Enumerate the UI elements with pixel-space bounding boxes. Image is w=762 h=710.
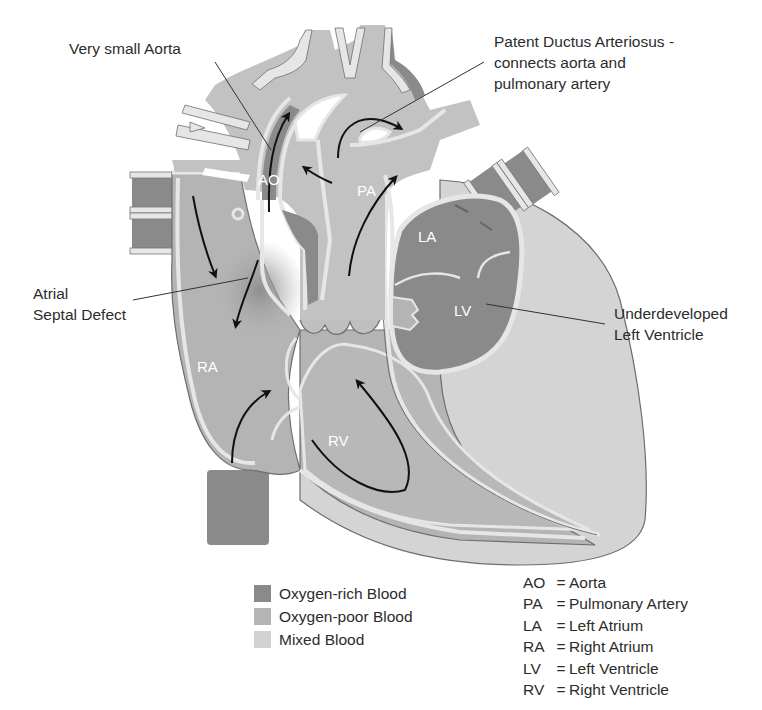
callout-text-line2: Septal Defect: [33, 304, 126, 325]
callout-text-line3: pulmonary artery: [494, 73, 674, 94]
abbr-row-pa: PA = Pulmonary Artery: [523, 594, 688, 616]
abbreviation-key: AO = Aorta PA = Pulmonary Artery LA = Le…: [523, 572, 688, 701]
label-lv: LV: [454, 302, 471, 319]
legend: Oxygen-rich Blood Oxygen-poor Blood Mixe…: [254, 582, 413, 651]
swatch-oxygen-rich-icon: [254, 585, 271, 602]
label-ao: AO: [258, 171, 280, 188]
callout-atrial-septal-defect: Atrial Septal Defect: [33, 283, 126, 325]
abbr-equals: =: [553, 595, 569, 613]
abbr-meaning: Left Atrium: [569, 617, 643, 635]
abbr-row-lv: LV = Left Ventricle: [523, 658, 688, 680]
abbr-row-la: LA = Left Atrium: [523, 615, 688, 637]
abbr-code: PA: [523, 595, 553, 613]
abbr-meaning: Right Atrium: [569, 638, 653, 656]
abbr-code: RA: [523, 638, 553, 656]
label-la: LA: [418, 228, 436, 245]
abbr-equals: =: [553, 617, 569, 635]
abbr-meaning: Left Ventricle: [569, 660, 659, 678]
legend-item-mixed: Mixed Blood: [254, 628, 413, 651]
callout-text: Very small Aorta: [69, 38, 181, 59]
abbr-row-ao: AO = Aorta: [523, 572, 688, 594]
legend-label: Oxygen-rich Blood: [279, 585, 407, 603]
label-rv: RV: [328, 432, 349, 449]
callout-patent-ductus-arteriosus: Patent Ductus Arteriosus - connects aort…: [494, 31, 674, 94]
abbr-equals: =: [553, 660, 569, 678]
abbr-meaning: Aorta: [569, 574, 606, 592]
abbr-code: LA: [523, 617, 553, 635]
abbr-code: AO: [523, 574, 553, 592]
legend-label: Mixed Blood: [279, 631, 364, 649]
abbr-row-rv: RV = Right Ventricle: [523, 680, 688, 702]
callout-text-line2: connects aorta and: [494, 52, 674, 73]
legend-item-oxygen-rich: Oxygen-rich Blood: [254, 582, 413, 605]
callout-underdeveloped-lv: Underdeveloped Left Ventricle: [614, 303, 728, 345]
abbr-meaning: Right Ventricle: [569, 681, 669, 699]
label-ra: RA: [197, 358, 218, 375]
abbr-meaning: Pulmonary Artery: [569, 595, 688, 613]
label-pa: PA: [357, 182, 376, 199]
legend-item-oxygen-poor: Oxygen-poor Blood: [254, 605, 413, 628]
inferior-vena-cava: [207, 470, 269, 545]
abbr-code: RV: [523, 681, 553, 699]
callout-text-line2: Left Ventricle: [614, 324, 728, 345]
abbr-code: LV: [523, 660, 553, 678]
legend-label: Oxygen-poor Blood: [279, 608, 413, 626]
swatch-oxygen-poor-icon: [254, 608, 271, 625]
abbr-row-ra: RA = Right Atrium: [523, 637, 688, 659]
callout-text-line1: Underdeveloped: [614, 303, 728, 324]
callout-text-line1: Patent Ductus Arteriosus -: [494, 31, 674, 52]
callout-text-line1: Atrial: [33, 283, 126, 304]
abbr-equals: =: [553, 638, 569, 656]
abbr-equals: =: [553, 681, 569, 699]
swatch-mixed-icon: [254, 631, 271, 648]
abbr-equals: =: [553, 574, 569, 592]
callout-very-small-aorta: Very small Aorta: [69, 38, 181, 59]
